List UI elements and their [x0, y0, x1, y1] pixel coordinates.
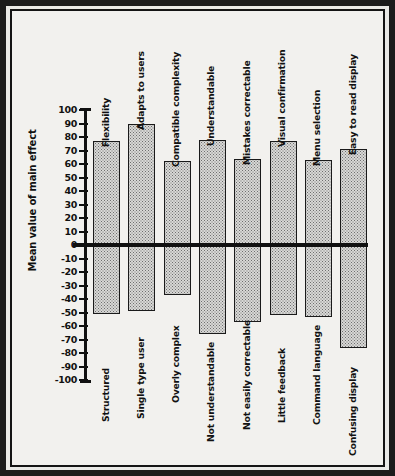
- y-axis-tick-label: 30: [41, 200, 77, 209]
- bar-bottom-label: Command language: [311, 325, 322, 425]
- bar: [199, 140, 226, 334]
- y-axis-tick-label: 0: [41, 240, 77, 249]
- bar-bottom-label: Overly complex: [170, 325, 181, 403]
- bar-top-label: Understandable: [205, 66, 216, 146]
- y-axis-tick-label: 10: [41, 227, 77, 236]
- bar-top-label: Flexibility: [100, 98, 111, 147]
- bar: [164, 161, 191, 295]
- bar: [93, 141, 120, 314]
- y-axis-tick-label: -30: [41, 281, 77, 290]
- bar-bottom-label: Structured: [100, 368, 111, 422]
- bar-top-label: Mistakes correctable: [241, 60, 252, 164]
- y-axis-tick-label: -80: [41, 348, 77, 357]
- bar: [305, 160, 332, 317]
- y-axis-tick-label: 70: [41, 146, 77, 155]
- y-axis-tick-label: -20: [41, 267, 77, 276]
- zero-baseline: [73, 243, 368, 247]
- bar-bottom-label: Confusing display: [347, 367, 358, 456]
- y-axis-tick-label: -10: [41, 254, 77, 263]
- y-axis-tick-label: 20: [41, 213, 77, 222]
- y-axis-tick-label: 60: [41, 159, 77, 168]
- bar-top-label: Visual confirmation: [276, 50, 287, 147]
- bar-top-label: Easy to read display: [347, 54, 358, 155]
- y-axis-tick-label: -90: [41, 362, 77, 371]
- y-axis-tick-label: -100: [41, 375, 77, 384]
- y-axis-tick-label: 50: [41, 173, 77, 182]
- bar-bottom-label: Little feedback: [276, 348, 287, 423]
- y-axis-tick-label: -60: [41, 321, 77, 330]
- y-axis-tick-label: 80: [41, 132, 77, 141]
- y-axis-tick-label: -50: [41, 308, 77, 317]
- plot-area: Mean value of main effect 10090807060504…: [0, 0, 395, 476]
- y-axis-tick-label: 100: [41, 105, 77, 114]
- y-axis-tick-label: -70: [41, 335, 77, 344]
- bar-top-label: Compatible complexity: [170, 52, 181, 167]
- bar-bottom-label: Not understandable: [205, 342, 216, 442]
- chart-page: Mean value of main effect 10090807060504…: [0, 0, 395, 476]
- bar-bottom-label: Single type user: [135, 338, 146, 420]
- y-axis-tick-label: 90: [41, 119, 77, 128]
- bar: [270, 141, 297, 315]
- bar: [128, 124, 155, 312]
- y-axis-tick-label: -40: [41, 294, 77, 303]
- y-axis-tick-label: 40: [41, 186, 77, 195]
- bar: [340, 149, 367, 347]
- y-axis-top-cap: [80, 108, 91, 111]
- bar: [234, 159, 261, 322]
- bar-top-label: Adapts to users: [135, 51, 146, 130]
- bar-top-label: Menu selection: [311, 90, 322, 166]
- y-axis-bottom-cap: [80, 380, 91, 383]
- y-axis-title: Mean value of main effect: [27, 106, 38, 296]
- bar-bottom-label: Not easily correctable: [241, 320, 252, 430]
